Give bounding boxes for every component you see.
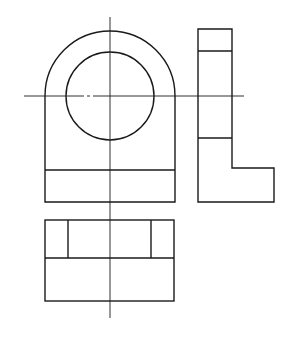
- side-view: [198, 29, 274, 202]
- side-view-outline: [198, 29, 274, 202]
- top-view: [45, 220, 174, 301]
- drawing-svg: [0, 0, 296, 337]
- center-lines: [24, 17, 244, 318]
- technical-drawing: [0, 0, 296, 337]
- top-view-outline: [45, 220, 174, 301]
